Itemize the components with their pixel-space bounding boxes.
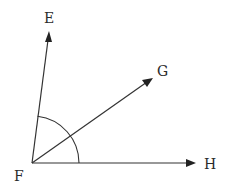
arrowhead-g-icon bbox=[142, 78, 153, 87]
angle-arc-efh bbox=[38, 116, 80, 163]
arrowhead-h-icon bbox=[186, 159, 196, 167]
ray-fh bbox=[32, 159, 196, 167]
arrowhead-e-icon bbox=[45, 31, 52, 42]
label-f: F bbox=[14, 168, 24, 184]
ray-fg bbox=[32, 78, 153, 163]
label-e: E bbox=[44, 10, 54, 26]
angle-diagram: E G F H bbox=[0, 0, 228, 184]
ray-fe bbox=[32, 31, 52, 163]
label-h: H bbox=[204, 156, 216, 172]
label-g: G bbox=[157, 63, 168, 79]
